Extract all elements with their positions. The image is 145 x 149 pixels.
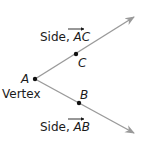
side-ab-label: Side, AB — [40, 120, 90, 134]
vertex-a-label: A — [20, 72, 29, 86]
side-ac-ray-name: AC — [73, 30, 91, 44]
angle-diagram: Side, AC C A Vertex B Side, AB — [0, 0, 145, 149]
side-ab-prefix: Side, — [40, 120, 74, 134]
point-c-label: C — [78, 56, 87, 70]
side-ac-prefix: Side, — [40, 30, 74, 44]
vertex-point-a — [33, 77, 37, 81]
side-ac-label: Side, AC — [40, 30, 91, 44]
side-ab-ray-name: AB — [73, 120, 90, 134]
point-b-label: B — [80, 88, 88, 102]
vertex-label: Vertex — [2, 87, 41, 101]
